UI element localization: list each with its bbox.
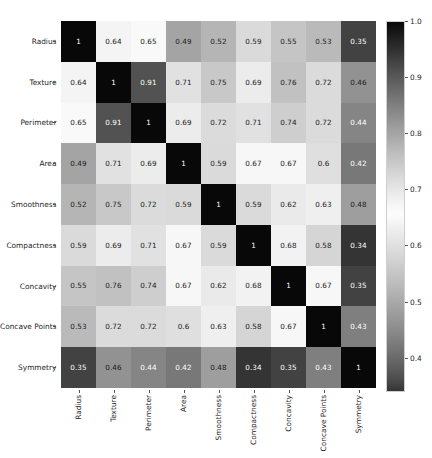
y-axis-tick-mark — [53, 367, 56, 368]
heatmap-cell-value: 0.71 — [175, 79, 191, 86]
colorbar-tick-label: 0.9 — [410, 73, 422, 82]
heatmap-cell-value: 0.72 — [140, 323, 156, 330]
heatmap-cell: 0.55 — [61, 266, 96, 307]
colorbar-tick-mark — [405, 133, 408, 134]
heatmap-cell-value: 0.65 — [140, 38, 156, 45]
heatmap-cell: 0.59 — [166, 184, 201, 225]
heatmap-cell-value: 1 — [356, 364, 361, 371]
x-axis-tick-label-text: Perimeter — [144, 395, 153, 431]
y-axis-tick-label: Perimeter — [0, 103, 62, 144]
x-axis-tick-label-text: Concave Points — [319, 395, 328, 451]
heatmap-cell: 0.35 — [341, 21, 376, 62]
heatmap-cell-value: 0.59 — [70, 242, 86, 249]
heatmap-cell: 0.43 — [341, 306, 376, 347]
colorbar-gradient — [386, 21, 405, 392]
colorbar-tick-mark — [405, 358, 408, 359]
heatmap-cell: 0.75 — [201, 62, 236, 103]
heatmap-cell: 1 — [166, 143, 201, 184]
heatmap-cell-value: 0.75 — [105, 201, 121, 208]
heatmap-cell-value: 0.64 — [70, 79, 86, 86]
heatmap-cell-value: 0.63 — [315, 201, 331, 208]
heatmap-cell-value: 0.69 — [140, 160, 156, 167]
colorbar-tick-label: 0.6 — [410, 241, 422, 250]
heatmap-cell-value: 1 — [181, 160, 186, 167]
y-axis-tick-mark — [53, 122, 56, 123]
x-axis-tick-mark — [79, 390, 80, 393]
x-axis-tick-label-text: Smoothness — [214, 395, 223, 440]
heatmap-cell-value: 0.49 — [175, 38, 191, 45]
heatmap-cell: 0.69 — [96, 225, 131, 266]
heatmap-cell-value: 0.71 — [140, 242, 156, 249]
heatmap-cell: 1 — [131, 103, 166, 144]
heatmap-cell: 0.59 — [61, 225, 96, 266]
heatmap-cell: 1 — [96, 62, 131, 103]
colorbar-tick-mark — [405, 21, 408, 22]
heatmap-cell: 0.74 — [131, 266, 166, 307]
y-axis-tick-mark — [53, 245, 56, 246]
heatmap-cell: 1 — [271, 266, 306, 307]
heatmap-cell: 1 — [341, 347, 376, 388]
heatmap-cell-value: 0.44 — [350, 119, 366, 126]
heatmap-cell-value: 0.72 — [315, 79, 331, 86]
heatmap-cell-value: 0.72 — [210, 119, 226, 126]
colorbar-tick-labels: 1.00.90.80.70.60.50.4 — [405, 21, 432, 392]
x-axis-tick-label: Concave Points — [306, 390, 341, 456]
heatmap-cell: 0.48 — [341, 184, 376, 225]
x-axis-tick-label-text: Texture — [109, 395, 118, 422]
heatmap-cell-value: 0.35 — [350, 38, 366, 45]
heatmap-cell: 0.72 — [306, 103, 341, 144]
heatmap-cell-value: 0.68 — [245, 282, 261, 289]
heatmap-cell-value: 0.69 — [245, 79, 261, 86]
heatmap-cell-value: 0.46 — [105, 364, 121, 371]
heatmap-cell: 0.43 — [306, 347, 341, 388]
x-axis-tick-label-text: Concavity — [284, 395, 293, 432]
heatmap-cell-value: 1 — [321, 323, 326, 330]
heatmap-cell: 0.71 — [96, 143, 131, 184]
y-axis-tick-mark — [53, 41, 56, 42]
heatmap-cell-value: 0.74 — [140, 282, 156, 289]
heatmap-cell: 0.67 — [166, 225, 201, 266]
heatmap-cell-value: 0.53 — [70, 323, 86, 330]
heatmap-cell-value: 0.55 — [70, 282, 86, 289]
x-axis-tick-label: Radius — [61, 390, 96, 456]
heatmap-cell-value: 1 — [251, 242, 256, 249]
heatmap-cell-value: 0.74 — [280, 119, 296, 126]
heatmap-cell-value: 0.53 — [315, 38, 331, 45]
heatmap-cell-value: 0.63 — [210, 323, 226, 330]
y-axis-tick-mark — [53, 286, 56, 287]
heatmap-cell-value: 0.67 — [315, 282, 331, 289]
heatmap-cell: 0.67 — [271, 143, 306, 184]
x-axis-tick-label: Perimeter — [131, 390, 166, 456]
heatmap-cell-value: 1 — [146, 119, 151, 126]
heatmap-cell: 0.34 — [341, 225, 376, 266]
heatmap-cell-value: 0.71 — [245, 119, 261, 126]
heatmap-cell-value: 0.55 — [280, 38, 296, 45]
heatmap-cell: 0.63 — [306, 184, 341, 225]
heatmap-cell-value: 0.71 — [105, 160, 121, 167]
heatmap-cell-value: 0.69 — [175, 119, 191, 126]
heatmap-cell-value: 0.34 — [245, 364, 261, 371]
heatmap-cell: 0.62 — [201, 266, 236, 307]
colorbar-tick-mark — [405, 77, 408, 78]
heatmap-cell-value: 0.58 — [315, 242, 331, 249]
heatmap-cell-value: 0.68 — [280, 242, 296, 249]
heatmap-cell-value: 0.43 — [315, 364, 331, 371]
heatmap-cell-value: 1 — [286, 282, 291, 289]
heatmap-cell: 0.53 — [306, 21, 341, 62]
heatmap-cell-value: 0.67 — [280, 160, 296, 167]
heatmap-cell-value: 0.75 — [210, 79, 226, 86]
heatmap-cell-value: 0.35 — [350, 282, 366, 289]
heatmap-cell: 0.71 — [131, 225, 166, 266]
heatmap-cell: 0.49 — [166, 21, 201, 62]
y-axis-tick-label: Concavity — [0, 266, 62, 307]
colorbar-tick-label: 1.0 — [410, 17, 422, 26]
x-axis-tick-mark — [149, 390, 150, 393]
heatmap-cell-value: 0.67 — [245, 160, 261, 167]
x-axis-tick-mark — [289, 390, 290, 393]
heatmap-cell: 0.68 — [236, 266, 271, 307]
colorbar-tick-label: 0.5 — [410, 298, 422, 307]
heatmap-cell: 0.72 — [131, 184, 166, 225]
heatmap-cell: 0.71 — [166, 62, 201, 103]
heatmap-cell-value: 0.64 — [105, 38, 121, 45]
heatmap-cell-value: 1 — [76, 38, 81, 45]
